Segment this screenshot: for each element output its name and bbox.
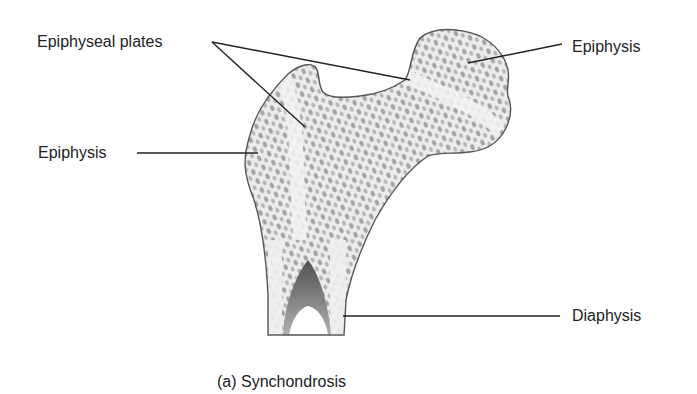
label-diaphysis: Diaphysis bbox=[572, 307, 641, 325]
label-epiphyseal-plates: Epiphyseal plates bbox=[37, 33, 162, 51]
synchondrosis-figure: Epiphyseal plates Epiphysis Epiphysis Di… bbox=[0, 0, 697, 394]
label-epiphysis-left: Epiphysis bbox=[38, 144, 106, 162]
bone-illustration bbox=[0, 0, 697, 394]
bone-shape bbox=[245, 30, 511, 341]
label-epiphysis-right: Epiphysis bbox=[572, 38, 640, 56]
figure-caption: (a) Synchondrosis bbox=[217, 373, 346, 391]
